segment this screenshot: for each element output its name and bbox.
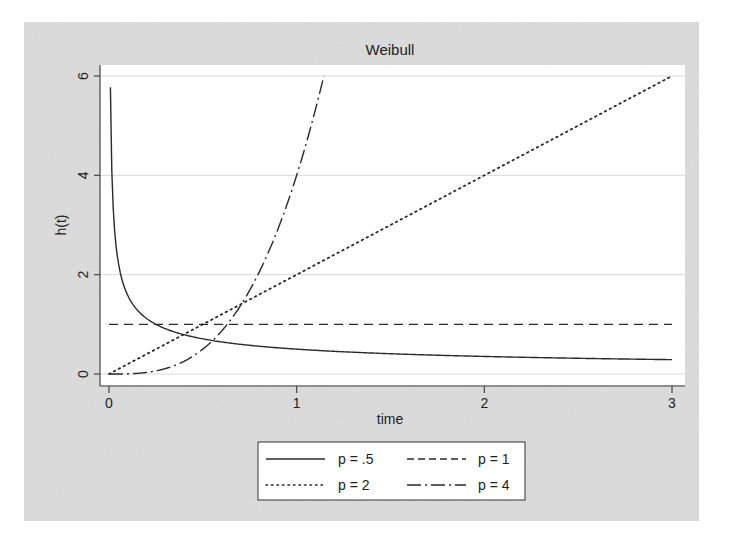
x-tick-label: 3 (668, 395, 676, 411)
y-tick-label: 0 (75, 370, 91, 378)
chart-title: Weibull (366, 41, 415, 58)
legend-label: p = 2 (338, 477, 370, 493)
x-axis-title: time (377, 411, 404, 427)
plot-area (100, 65, 685, 385)
y-axis-title: h(t) (53, 215, 69, 236)
legend: p = .5p = 1p = 2p = 4 (258, 442, 525, 500)
y-tick-label: 4 (75, 171, 91, 179)
x-tick-label: 1 (293, 395, 301, 411)
y-tick-label: 6 (75, 72, 91, 80)
y-tick-label: 2 (75, 271, 91, 279)
legend-label: p = .5 (338, 451, 374, 467)
x-tick-label: 0 (105, 395, 113, 411)
weibull-chart: Weibull 02460123 time h(t) p = .5p = 1p … (0, 0, 733, 546)
x-tick-label: 2 (480, 395, 488, 411)
legend-label: p = 1 (478, 451, 510, 467)
legend-label: p = 4 (478, 477, 510, 493)
